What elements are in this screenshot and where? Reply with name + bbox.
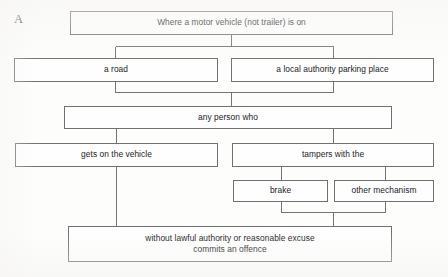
node-any-person: any person who xyxy=(64,106,392,129)
node-offence-label: without lawful authority or reasonable e… xyxy=(142,233,317,255)
node-parking-place: a local authority parking place xyxy=(231,58,434,82)
diagram-sheet: A xyxy=(0,0,448,277)
node-offence: without lawful authority or reasonable e… xyxy=(68,226,392,262)
node-brake: brake xyxy=(233,180,328,202)
node-gets-on-vehicle-label: gets on the vehicle xyxy=(78,149,155,160)
node-other-mechanism: other mechanism xyxy=(334,180,434,202)
node-any-person-label: any person who xyxy=(195,112,261,123)
node-tampers-with: tampers with the xyxy=(232,143,434,167)
node-other-mechanism-label: other mechanism xyxy=(349,185,420,196)
node-premise: Where a motor vehicle (not trailer) is o… xyxy=(70,11,393,35)
node-gets-on-vehicle: gets on the vehicle xyxy=(15,143,218,167)
node-premise-label: Where a motor vehicle (not trailer) is o… xyxy=(154,17,309,28)
node-road-label: a road xyxy=(101,64,131,75)
node-tampers-with-label: tampers with the xyxy=(299,149,367,160)
flowchart-page: A xyxy=(0,0,448,277)
node-brake-label: brake xyxy=(267,185,294,196)
node-parking-place-label: a local authority parking place xyxy=(273,64,391,75)
node-road: a road xyxy=(14,58,218,82)
